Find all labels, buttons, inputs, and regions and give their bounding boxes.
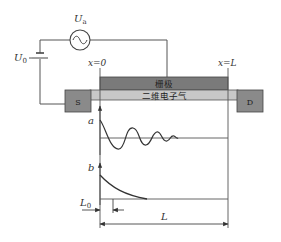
drain-label: D bbox=[247, 98, 253, 107]
plot-a: a bbox=[88, 106, 228, 155]
source-label: S bbox=[75, 98, 80, 107]
plot-a-damped-oscillation bbox=[100, 120, 178, 149]
ac-source-label: Ua bbox=[74, 13, 87, 26]
dc-source-battery bbox=[32, 53, 48, 58]
L-label: L bbox=[160, 211, 168, 222]
plot-a-label: a bbox=[88, 115, 94, 126]
ac-source-icon bbox=[70, 30, 90, 50]
xL-label: x=L bbox=[218, 58, 237, 68]
channel-label: 二维电子气 bbox=[142, 91, 187, 101]
L-dimension: L bbox=[100, 211, 228, 224]
plot-b-exponential-decay bbox=[100, 175, 147, 199]
plot-b-label: b bbox=[88, 162, 94, 173]
gate-label: 栅极 bbox=[155, 79, 173, 89]
x0-label: x=0 bbox=[88, 58, 107, 68]
L0-label: L0 bbox=[79, 197, 91, 210]
hemt-plasma-diagram: U0 Ua 栅极 二维电子气 S D x=0 x=L a b bbox=[0, 0, 281, 242]
plot-b: b bbox=[88, 162, 228, 213]
dc-source-label: U0 bbox=[14, 52, 27, 65]
